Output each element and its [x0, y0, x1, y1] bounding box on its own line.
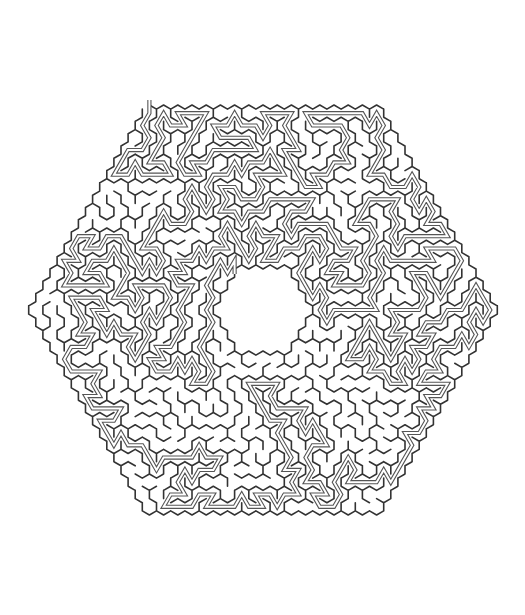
- maze-svg: [0, 0, 525, 615]
- maze-board: [0, 0, 525, 615]
